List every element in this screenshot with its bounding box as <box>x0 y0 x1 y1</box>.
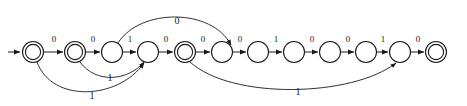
transition-label: 0 <box>201 34 206 44</box>
transition-q5-q6: 0 <box>196 34 210 52</box>
transition-label: 0 <box>52 34 57 44</box>
transition-label: 1 <box>274 34 279 44</box>
state-q3[interactable] <box>102 42 123 63</box>
transition-q4-q5: 0 <box>159 34 173 52</box>
state-q12[interactable] <box>426 42 447 63</box>
bottom-arc-q5-to-q11: 1 <box>190 62 396 97</box>
top-arc-q3-to-q6: 0 <box>118 15 231 45</box>
transition-label: 0 <box>91 34 96 44</box>
transition-label: 1 <box>381 34 386 44</box>
transition-label: 0 <box>164 34 169 44</box>
transition-q6-q7: 0 <box>233 34 246 52</box>
state-q11[interactable] <box>390 42 411 63</box>
bottom-arc-q1-to-q4: 1 <box>37 62 144 101</box>
fsm-diagram-container: 0 0 1 0 0 0 1 <box>0 0 467 106</box>
transition-q8-q9: 0 <box>305 34 318 52</box>
transition-label: 1 <box>128 34 133 44</box>
state-q7[interactable] <box>248 42 269 63</box>
arc-label: 1 <box>90 90 95 101</box>
transition-q3-q4: 1 <box>123 34 136 52</box>
state-q8[interactable] <box>284 42 305 63</box>
transition-q9-q10: 0 <box>341 34 354 52</box>
arc-label: 0 <box>175 15 180 26</box>
arc-label: 1 <box>108 72 113 83</box>
transition-label: 0 <box>310 34 315 44</box>
transition-q11-q12: 0 <box>411 34 424 52</box>
transition-q7-q8: 1 <box>269 34 282 52</box>
bottom-arc-q2-to-q4: 1 <box>80 62 144 83</box>
state-q6[interactable] <box>212 42 233 63</box>
state-q4[interactable] <box>138 42 159 63</box>
transition-label: 0 <box>238 34 243 44</box>
state-q10[interactable] <box>356 42 377 63</box>
transition-label: 0 <box>416 34 421 44</box>
transition-q2-q3: 0 <box>86 34 100 52</box>
transition-q1-q2: 0 <box>44 34 63 52</box>
state-q9[interactable] <box>320 42 341 63</box>
transition-q10-q11: 1 <box>377 34 388 52</box>
fsm-diagram-canvas: 0 0 1 0 0 0 1 <box>0 0 467 106</box>
arc-label: 1 <box>296 86 301 97</box>
state-q1[interactable] <box>23 42 44 63</box>
transition-label: 0 <box>346 34 351 44</box>
state-q2[interactable] <box>65 42 86 63</box>
state-q5[interactable] <box>175 42 196 63</box>
